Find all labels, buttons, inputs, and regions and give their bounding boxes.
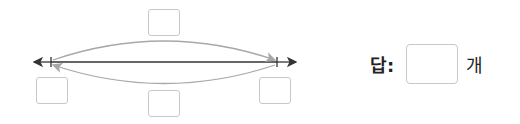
box-top[interactable] [148, 9, 180, 36]
answer-input-box[interactable] [406, 44, 458, 84]
answer-label: 답: [370, 51, 394, 77]
answer-unit: 개 [466, 51, 483, 77]
upper-arc-arrow [53, 41, 275, 60]
answer-row: 답: 개 [370, 44, 483, 84]
box-bottom-right[interactable] [259, 77, 291, 104]
number-line-diagram [0, 0, 330, 124]
box-bottom-middle[interactable] [148, 90, 180, 117]
box-bottom-left[interactable] [36, 77, 68, 104]
lower-arc-arrow [53, 65, 275, 84]
